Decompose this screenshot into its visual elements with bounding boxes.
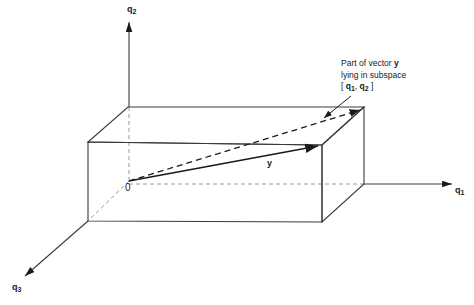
annotation-line-1: Part of vector y [341, 58, 399, 68]
axis-q3 [25, 181, 129, 276]
projection-diagram: q2 q1 q3 0 y Part of vector y lying in s… [0, 0, 474, 305]
origin-label: 0 [125, 182, 131, 193]
axis-label-q2: q2 [127, 4, 136, 14]
vector-y [129, 146, 318, 181]
annotation-q1: q1 [346, 81, 355, 91]
annotation-vector-y: y [394, 58, 399, 68]
annotation-line-2: lying in subspace [341, 70, 406, 80]
axis-label-q3: q3 [12, 282, 21, 292]
box-top-face [88, 107, 364, 145]
vector-label-y: y [267, 158, 272, 168]
annotation-q2: q2 [360, 81, 369, 91]
vector-y-projection [129, 110, 360, 181]
annotation-line-3: [ q1, q2 ] [341, 81, 373, 91]
annotation-text: Part of vector y lying in subspace [ q1,… [341, 58, 406, 93]
box-right-face [322, 107, 364, 222]
box-front-face [88, 142, 322, 222]
axis-label-q1: q1 [455, 185, 464, 195]
